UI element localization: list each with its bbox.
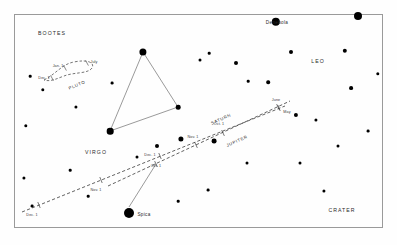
field-star bbox=[87, 195, 90, 198]
date-label: Dec. 1 bbox=[26, 213, 37, 217]
field-star bbox=[208, 52, 211, 55]
constellation-label-virgo: VIRGO bbox=[85, 149, 107, 155]
field-star bbox=[247, 80, 250, 83]
constellation-label-leo: LEO bbox=[311, 58, 325, 64]
field-star bbox=[136, 156, 139, 159]
field-star bbox=[29, 75, 32, 78]
constellation-label-bootes: BOOTES bbox=[38, 30, 66, 36]
star-label-denebola: Denebola bbox=[266, 20, 288, 25]
field-star bbox=[367, 130, 370, 133]
field-star bbox=[177, 200, 180, 203]
field-star bbox=[207, 189, 210, 192]
date-label: Jan. 1 bbox=[53, 64, 64, 68]
constellation-label-crater: CRATER bbox=[328, 207, 355, 213]
field-star bbox=[299, 162, 302, 165]
field-star bbox=[176, 105, 181, 110]
field-star bbox=[107, 128, 114, 135]
field-star bbox=[69, 169, 72, 172]
asterism-line bbox=[110, 107, 178, 131]
field-star bbox=[266, 80, 270, 84]
spica-to-saturn-track bbox=[129, 164, 156, 207]
asterism-line bbox=[143, 52, 178, 107]
field-star bbox=[246, 162, 249, 165]
date-tick bbox=[195, 142, 198, 148]
date-label: Dec. 1 bbox=[38, 76, 49, 80]
date-label: Oct. 1 bbox=[151, 164, 161, 168]
asterism-line bbox=[110, 52, 143, 131]
virgo-triangle-lines bbox=[110, 52, 178, 131]
leader-lines bbox=[129, 164, 156, 207]
field-star bbox=[349, 86, 353, 90]
track-line-jupiter bbox=[108, 101, 290, 186]
date-label: Oct. 1 bbox=[214, 122, 224, 126]
pluto-loop-path bbox=[44, 61, 93, 81]
pluto-retrograde-loop bbox=[44, 61, 93, 81]
date-label: Nov. 1 bbox=[188, 135, 199, 139]
field-star bbox=[289, 50, 293, 54]
date-label: June bbox=[272, 98, 280, 102]
date-tick bbox=[159, 153, 161, 159]
date-label: July bbox=[91, 60, 98, 64]
date-label: May bbox=[283, 110, 290, 114]
field-star bbox=[111, 82, 114, 85]
star-chart: BOOTESVIRGOLEOCRATERDenebolaSpicaSATURND… bbox=[0, 0, 397, 245]
field-star bbox=[234, 61, 238, 65]
field-star bbox=[212, 139, 217, 144]
field-star bbox=[337, 145, 340, 148]
date-label: Dec. 1 bbox=[144, 153, 155, 157]
field-star bbox=[199, 59, 202, 62]
field-star bbox=[31, 205, 34, 208]
named-star-spica bbox=[124, 208, 134, 218]
field-star bbox=[354, 12, 362, 20]
planet-track-lines bbox=[22, 101, 290, 212]
field-star bbox=[155, 144, 159, 148]
date-label: Nov. 1 bbox=[91, 188, 102, 192]
star-label-spica: Spica bbox=[137, 212, 150, 217]
date-tick bbox=[100, 177, 102, 183]
